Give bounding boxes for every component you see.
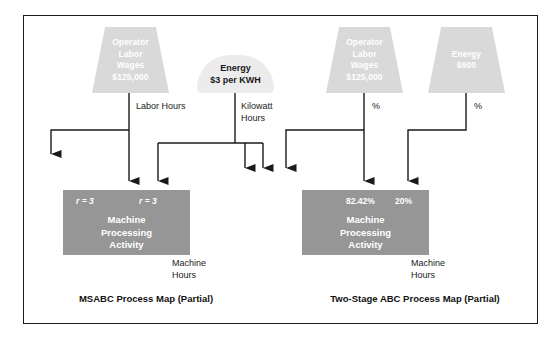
driver-label-percent-right: % <box>474 101 482 113</box>
driver-quantity: 20% <box>395 196 412 206</box>
resource-line: Operator <box>346 37 383 49</box>
driver-quantity: r = 3 <box>76 196 94 206</box>
output-label-machine-hours-right: Machine Hours <box>411 258 445 281</box>
process-map-figure: Operator Labor Wages $125,000 Energy $3 … <box>0 0 556 343</box>
driver-label-line: Kilowatt <box>241 101 273 113</box>
resource-line: Labor <box>352 49 376 61</box>
caption-left-panel: MSABC Process Map (Partial) <box>46 293 246 304</box>
driver-label-line: % <box>474 101 482 113</box>
resource-line: Energy <box>220 62 251 74</box>
output-label-machine-hours-left: Machine Hours <box>172 258 206 281</box>
activity-title-line: Activity <box>63 239 190 252</box>
resource-line: $125,000 <box>112 72 148 84</box>
activity-machine-processing-right: 82.42% 20% Machine Processing Activity <box>302 190 429 255</box>
output-label-line: Machine <box>411 258 445 270</box>
activity-title-line: Machine <box>302 214 429 227</box>
activity-title-line: Processing <box>302 227 429 240</box>
resource-line: $125,000 <box>346 72 382 84</box>
activity-machine-processing-left: r = 3 r = 3 Machine Processing Activity <box>63 190 190 255</box>
resource-line: $900 <box>457 60 476 72</box>
driver-quantity: 82.42% <box>346 196 375 206</box>
resource-line: $3 per KWH <box>210 74 261 86</box>
driver-quantity: r = 3 <box>139 196 157 206</box>
driver-label-line: % <box>372 101 380 113</box>
output-label-line: Hours <box>411 270 445 282</box>
activity-title-line: Activity <box>302 239 429 252</box>
activity-title: Machine Processing Activity <box>302 214 429 252</box>
output-label-line: Hours <box>172 270 206 282</box>
caption-right-panel: Two-Stage ABC Process Map (Partial) <box>290 293 540 304</box>
driver-label-kilowatt-hours: Kilowatt Hours <box>241 101 273 124</box>
activity-title-line: Processing <box>63 227 190 240</box>
driver-label-line: Hours <box>241 113 273 125</box>
resource-line: Wages <box>117 60 145 72</box>
driver-label-labor-hours: Labor Hours <box>136 101 186 113</box>
resource-operator-labor-wages-right: Operator Labor Wages $125,000 <box>326 27 403 93</box>
resource-operator-labor-wages-left: Operator Labor Wages $125,000 <box>92 27 169 93</box>
driver-label-line: Labor Hours <box>136 101 186 113</box>
resource-energy-900: Energy $900 <box>428 27 505 93</box>
output-label-line: Machine <box>172 258 206 270</box>
activity-title: Machine Processing Activity <box>63 214 190 252</box>
resource-line: Energy <box>452 49 481 61</box>
driver-label-percent-left: % <box>372 101 380 113</box>
resource-line: Wages <box>351 60 379 72</box>
activity-title-line: Machine <box>63 214 190 227</box>
resource-line: Labor <box>118 49 142 61</box>
resource-line: Operator <box>112 37 149 49</box>
